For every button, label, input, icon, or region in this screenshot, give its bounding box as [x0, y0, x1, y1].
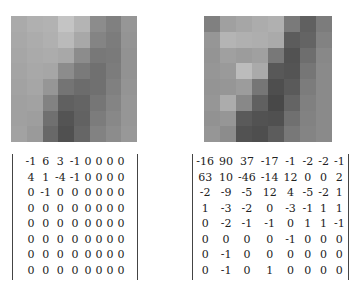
pixel-block	[90, 79, 106, 95]
pixel-block	[27, 126, 43, 142]
pixel-block	[316, 32, 332, 48]
matrix-cell: 0	[93, 185, 104, 201]
matrix-cell: -1	[331, 154, 347, 170]
matrix-cell: -1	[236, 216, 259, 232]
pixel-block	[106, 16, 122, 32]
matrix-cell: 0	[236, 263, 259, 279]
matrix-cell: 0	[24, 232, 39, 248]
pixel-block	[316, 111, 332, 127]
matrix-cell: 0	[93, 247, 104, 263]
matrix-cell: 0	[194, 232, 217, 248]
matrix-cell: 0	[68, 216, 83, 232]
matrix-cell: 0	[300, 263, 316, 279]
matrix-cell: 0	[194, 216, 217, 232]
matrix-cell: 0	[104, 216, 115, 232]
pixel-block	[121, 95, 137, 111]
pixel-block	[220, 48, 236, 64]
pixel-block	[252, 111, 268, 127]
matrix-cell: 0	[93, 201, 104, 217]
matrix-cell: 0	[38, 247, 53, 263]
pixel-block	[268, 126, 284, 142]
matrix-cell: -1	[281, 154, 300, 170]
matrix-cell: 0	[115, 185, 126, 201]
matrix-cell: -16	[194, 154, 217, 170]
pixel-block	[11, 48, 27, 64]
matrix-cell: 0	[24, 185, 39, 201]
matrix-cell: 1	[258, 263, 281, 279]
pixel-block	[220, 126, 236, 142]
matrix-cell: -1	[68, 154, 83, 170]
pixel-block	[284, 16, 300, 32]
matrix-cell: -1	[217, 263, 236, 279]
matrix-row: 41-4-10000	[24, 170, 127, 186]
matrix-cell: -2	[217, 216, 236, 232]
pixel-block	[43, 16, 59, 32]
matrix-cell: -2	[194, 185, 217, 201]
matrix-row: 1-3-20-3-111	[194, 201, 347, 217]
matrix-cell: -1	[68, 170, 83, 186]
matrix-cell: -2	[236, 201, 259, 217]
pixel-block	[27, 63, 43, 79]
matrix-cell: 0	[53, 201, 68, 217]
matrix-cell: 0	[281, 247, 300, 263]
pixel-block	[11, 16, 27, 32]
matrix-cell: 0	[258, 201, 281, 217]
pixel-block	[252, 48, 268, 64]
pixel-block	[43, 63, 59, 79]
pixel-block	[90, 63, 106, 79]
pixel-block	[220, 111, 236, 127]
matrix-cell: 90	[217, 154, 236, 170]
matrix-cell: 0	[104, 263, 115, 279]
pixel-block	[43, 111, 59, 127]
pixel-block	[284, 48, 300, 64]
matrix-cell: 0	[115, 232, 126, 248]
matrix-cell: 0	[24, 263, 39, 279]
matrix-cell: -5	[300, 185, 316, 201]
pixel-block	[74, 48, 90, 64]
matrix-cell: -1	[217, 247, 236, 263]
matrix-cell: 0	[93, 263, 104, 279]
pixel-block	[316, 79, 332, 95]
matrix-row: 0-2-1-1011-1	[194, 216, 347, 232]
matrix-row: 00000000	[24, 216, 127, 232]
pixel-block	[43, 126, 59, 142]
matrix-cell: 0	[194, 247, 217, 263]
pixel-block	[58, 63, 74, 79]
matrix-cell: 63	[194, 170, 217, 186]
matrix-cell: -4	[53, 170, 68, 186]
matrix-cell: 0	[217, 232, 236, 248]
pixel-block	[300, 79, 316, 95]
pixel-block	[11, 63, 27, 79]
matrix-cell: 0	[93, 232, 104, 248]
matrix-cell: 0	[115, 201, 126, 217]
matrix-cell: -1	[281, 232, 300, 248]
matrix-cell: 0	[53, 232, 68, 248]
pixel-block	[220, 16, 236, 32]
matrix-cell: 0	[82, 185, 93, 201]
pixel-block	[27, 32, 43, 48]
pixel-block	[58, 48, 74, 64]
pixel-block	[252, 32, 268, 48]
pixel-block	[204, 16, 220, 32]
matrix-cell: 1	[316, 216, 332, 232]
matrix-cell: 0	[316, 232, 332, 248]
pixel-block	[284, 79, 300, 95]
matrix-cell: 0	[24, 201, 39, 217]
matrix-cell: -46	[236, 170, 259, 186]
pixel-block	[11, 79, 27, 95]
pixel-block	[74, 126, 90, 142]
matrix-row: 0-1000000	[24, 185, 127, 201]
matrix-cell: 0	[93, 216, 104, 232]
pixel-block	[252, 95, 268, 111]
matrix-cell: 10	[217, 170, 236, 186]
pixel-block	[121, 126, 137, 142]
pixel-block	[236, 126, 252, 142]
pixel-block	[27, 79, 43, 95]
pixel-block	[236, 111, 252, 127]
matrix-cell: 4	[281, 185, 300, 201]
matrix-cell: 0	[38, 232, 53, 248]
matrix-cell: 1	[331, 185, 347, 201]
matrix-cell: 12	[281, 170, 300, 186]
matrix-cell: 0	[331, 232, 347, 248]
matrix-cell: 0	[194, 263, 217, 279]
